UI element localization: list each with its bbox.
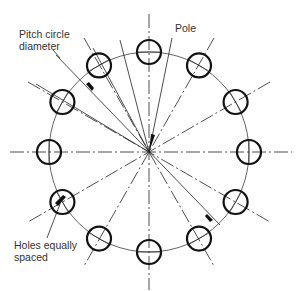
pitch-circle-label-line2: diameter <box>19 40 60 52</box>
arrow-icon <box>86 82 94 91</box>
pole-label: Pole <box>175 22 196 34</box>
holes-label-line1: Holes equally <box>14 239 77 251</box>
arrow-icon <box>205 214 213 222</box>
arrow-icon <box>55 195 66 206</box>
diameter-line <box>56 55 220 225</box>
holes-label-line2: spaced <box>14 251 48 263</box>
pitch-circle-label-line1: Pitch circle <box>19 28 70 40</box>
